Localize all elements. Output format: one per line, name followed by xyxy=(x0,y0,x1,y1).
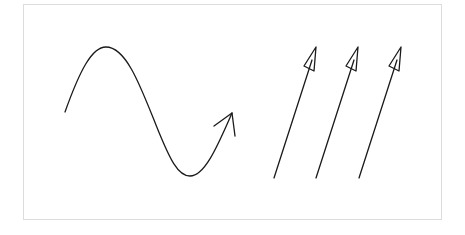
ray-3 xyxy=(359,47,401,178)
ray-2 xyxy=(316,47,358,178)
diagram-canvas xyxy=(0,0,465,235)
wave-arrowhead-icon xyxy=(214,113,235,136)
sine-wave xyxy=(65,47,232,176)
ray-1 xyxy=(274,47,316,178)
